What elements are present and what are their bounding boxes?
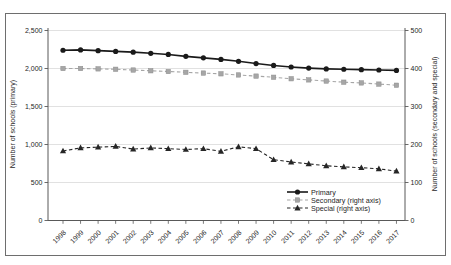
legend: PrimarySecondary (right axis)Special (ri… <box>287 188 381 213</box>
secondary-point-marker <box>78 66 82 70</box>
x-axis-year-label: 2003 <box>139 229 155 245</box>
x-axis-year-label: 2006 <box>192 229 208 245</box>
x-axis-year-label: 2009 <box>244 229 260 245</box>
x-axis-year-label: 1998 <box>51 229 67 245</box>
x-axis-year-label: 2004 <box>157 229 173 245</box>
special-point-marker <box>271 156 277 162</box>
right-axis-tick-label: 100 <box>411 179 423 186</box>
secondary-point-marker <box>219 72 223 76</box>
secondary-point-marker <box>254 74 258 78</box>
primary-point-marker <box>96 48 101 53</box>
series-special-right-axis <box>60 143 400 173</box>
x-axis-year-label: 2016 <box>367 229 383 245</box>
x-axis-year-label: 2010 <box>262 229 278 245</box>
x-axis-year-label: 2000 <box>86 229 102 245</box>
right-axis-tick-label: 200 <box>411 141 423 148</box>
secondary-point-marker <box>324 79 328 83</box>
secondary-point-marker <box>289 77 293 81</box>
secondary-point-marker <box>201 71 205 75</box>
primary-point-marker <box>201 55 206 60</box>
primary-point-marker <box>166 52 171 57</box>
secondary-point-marker <box>394 83 398 87</box>
right-axis-tick-label: 0 <box>411 217 415 224</box>
secondary-point-marker <box>342 80 346 84</box>
right-axis-ticks: 0100200300400500 <box>405 27 422 224</box>
primary-point-marker <box>148 51 153 56</box>
x-axis-ticks: 1998199920002001200220032004200520062007… <box>51 221 400 245</box>
x-axis-year-label: 1999 <box>69 229 85 245</box>
secondary-point-marker <box>149 69 153 73</box>
primary-point-marker <box>183 54 188 59</box>
primary-point-marker <box>376 67 381 72</box>
right-axis-tick-label: 500 <box>411 27 423 34</box>
x-axis-year-label: 2007 <box>209 229 225 245</box>
primary-point-marker <box>359 67 364 72</box>
x-axis-year-label: 2008 <box>227 229 243 245</box>
x-axis-year-label: 2014 <box>332 229 348 245</box>
primary-point-marker <box>289 64 294 69</box>
x-axis-year-label: 2012 <box>297 229 313 245</box>
primary-point-marker <box>324 66 329 71</box>
left-axis-ticks: 05001,0001,5002,0002,500 <box>25 27 48 224</box>
primary-point-marker <box>60 48 65 53</box>
secondary-point-marker <box>131 68 135 72</box>
axes <box>48 28 405 221</box>
x-axis-year-label: 2015 <box>350 229 366 245</box>
secondary-point-marker <box>166 69 170 73</box>
primary-point-marker <box>78 47 83 52</box>
x-axis-year-label: 2005 <box>174 229 190 245</box>
right-axis-title: Number of schools (secondary and special… <box>431 57 439 192</box>
primary-point-marker <box>295 189 300 194</box>
legend-item-special: Special (right axis) <box>287 204 370 213</box>
secondary-point-marker <box>359 81 363 85</box>
primary-point-marker <box>218 57 223 62</box>
x-axis-year-label: 2001 <box>104 229 120 245</box>
secondary-point-marker <box>377 82 381 86</box>
primary-point-marker <box>253 61 258 66</box>
left-axis-tick-label: 2,000 <box>25 65 43 72</box>
secondary-point-marker <box>295 198 299 202</box>
left-axis-tick-label: 0 <box>39 217 43 224</box>
primary-point-marker <box>271 63 276 68</box>
secondary-point-marker <box>96 67 100 71</box>
primary-point-marker <box>394 68 399 73</box>
right-axis-tick-label: 300 <box>411 103 423 110</box>
schools-line-chart: 05001,0001,5002,0002,5000100200300400500… <box>0 0 451 265</box>
secondary-point-marker <box>113 67 117 71</box>
primary-point-marker <box>236 59 241 64</box>
left-axis-tick-label: 1,000 <box>25 141 43 148</box>
secondary-point-marker <box>236 73 240 77</box>
right-axis-tick-label: 400 <box>411 65 423 72</box>
primary-point-marker <box>306 66 311 71</box>
x-axis-year-label: 2011 <box>280 229 296 245</box>
left-axis-tick-label: 500 <box>31 179 43 186</box>
left-axis-tick-label: 2,500 <box>25 27 43 34</box>
x-axis-year-label: 2017 <box>385 229 401 245</box>
secondary-point-marker <box>307 78 311 82</box>
left-axis-title: Number of schools (primary) <box>9 80 17 168</box>
secondary-point-marker <box>61 66 65 70</box>
legend-label: Special (right axis) <box>311 204 370 213</box>
secondary-point-marker <box>184 70 188 74</box>
gridlines <box>48 31 405 183</box>
axis-titles: Number of schools (primary)Number of sch… <box>9 57 439 192</box>
secondary-point-marker <box>271 75 275 79</box>
left-axis-tick-label: 1,500 <box>25 103 43 110</box>
primary-point-marker <box>341 67 346 72</box>
primary-point-marker <box>131 50 136 55</box>
x-axis-year-label: 2002 <box>121 229 137 245</box>
x-axis-year-label: 2013 <box>314 229 330 245</box>
primary-point-marker <box>113 49 118 54</box>
